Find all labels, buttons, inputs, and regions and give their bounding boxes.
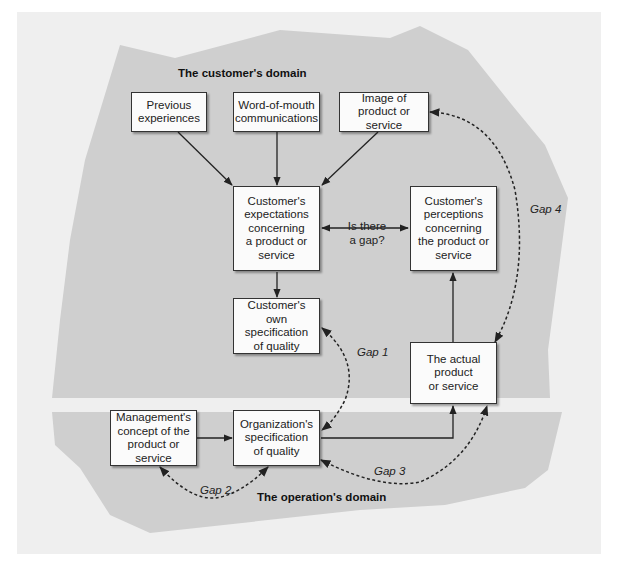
previous-experiences-box: Previous experiences <box>131 92 207 132</box>
gap-3-label: Gap 3 <box>374 465 405 477</box>
gap-2-label: Gap 2 <box>200 484 231 496</box>
is-there-a-gap-label: Is there a gap? <box>322 220 412 247</box>
actual-product-box: The actual product or service <box>410 342 497 404</box>
management-concept-box: Management's concept of the product or s… <box>110 410 197 466</box>
word-of-mouth-box: Word-of-mouth communications <box>233 92 320 132</box>
operation-domain-title: The operation's domain <box>257 491 386 503</box>
customer-expectations-box: Customer's expectations concerning a pro… <box>233 186 320 271</box>
customer-domain-title: The customer's domain <box>178 67 307 79</box>
customer-perceptions-box: Customer's perceptions concerning the pr… <box>410 186 497 271</box>
image-of-product-box: Image of product or service <box>339 92 429 132</box>
organization-specification-box: Organization's specification of quality <box>233 410 320 466</box>
customer-own-specification-box: Customer's own specification of quality <box>233 298 320 354</box>
domain-shapes <box>0 0 618 566</box>
gap-1-label: Gap 1 <box>357 346 388 358</box>
gap-4-label: Gap 4 <box>530 203 561 215</box>
